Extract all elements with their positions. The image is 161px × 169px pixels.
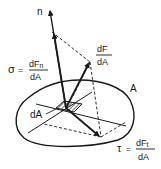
- tau-symbol: τ: [117, 142, 122, 154]
- sigma-denominator: dA: [30, 72, 41, 82]
- sigma-numerator: dFn: [29, 59, 44, 69]
- area-element-label: dA: [30, 109, 43, 120]
- stress-numerator: dF: [97, 44, 108, 54]
- dashed-line-dF-to-tau: [90, 62, 101, 137]
- tau-equals: =: [126, 145, 131, 154]
- sigma-symbol: σ: [8, 63, 15, 75]
- plane-line-1: [36, 104, 126, 126]
- tau-numerator: dFt: [136, 138, 149, 148]
- sigma-num-base: dF: [29, 59, 40, 69]
- sigma-num-sub: n: [40, 62, 44, 69]
- normal-label: n: [37, 6, 43, 17]
- area-element-leader: [46, 108, 58, 114]
- sigma-equals: =: [18, 65, 23, 75]
- tau-num-base: dF: [136, 138, 147, 148]
- stress-diagram: n A dA σ = dFn dA dF dA τ = dFt dA: [0, 0, 161, 169]
- stress-denominator: dA: [97, 57, 108, 67]
- dashed-line-tau-proj-1: [101, 122, 126, 137]
- sigma-arrow: [54, 34, 66, 108]
- tau-denominator: dA: [138, 152, 149, 162]
- region-label: A: [130, 83, 137, 94]
- tau-arrow: [66, 108, 99, 136]
- tau-num-sub: t: [147, 141, 149, 148]
